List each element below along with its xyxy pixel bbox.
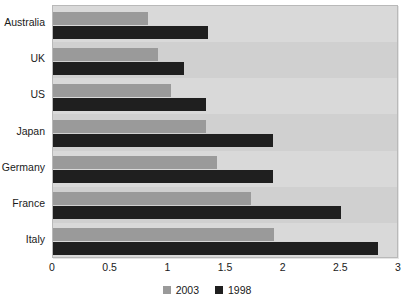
bar-chart: AustraliaUKUSJapanGermanyFranceItaly 00.…: [0, 0, 414, 301]
legend-entry-1998[interactable]: 1998: [215, 285, 251, 296]
bar-us-2003: [53, 84, 171, 97]
x-axis-tick-1.5: 1.5: [218, 261, 233, 273]
y-axis-label-australia: Australia: [4, 17, 45, 28]
legend-label: 1998: [228, 285, 251, 296]
x-axis-tick-2.5: 2.5: [333, 261, 348, 273]
bar-australia-1998: [53, 26, 208, 39]
legend-label: 2003: [176, 285, 199, 296]
x-axis-tick-2: 2: [280, 261, 286, 273]
legend-swatch-icon: [163, 286, 171, 294]
y-axis-category-labels: AustraliaUKUSJapanGermanyFranceItaly: [0, 5, 48, 258]
x-axis-tick-labels: 00.511.522.53: [0, 261, 414, 275]
y-axis-label-us: US: [30, 89, 45, 100]
bar-japan-1998: [53, 134, 273, 147]
bar-germany-1998: [53, 170, 273, 183]
chart-legend: 20031998: [0, 283, 414, 297]
bar-italy-2003: [53, 228, 274, 241]
bar-italy-1998: [53, 242, 378, 255]
y-axis-label-italy: Italy: [26, 234, 45, 245]
y-axis-label-france: France: [12, 198, 45, 209]
y-axis-label-germany: Germany: [2, 162, 45, 173]
bar-australia-2003: [53, 12, 148, 25]
bar-uk-2003: [53, 48, 158, 61]
legend-entry-2003[interactable]: 2003: [163, 285, 199, 296]
x-axis-tick-0: 0: [49, 261, 55, 273]
bar-japan-2003: [53, 120, 206, 133]
bar-france-1998: [53, 206, 341, 219]
y-axis-label-japan: Japan: [16, 126, 45, 137]
legend-swatch-icon: [215, 286, 223, 294]
x-axis-tick-3: 3: [395, 261, 401, 273]
x-axis-tick-1: 1: [164, 261, 170, 273]
bar-uk-1998: [53, 62, 184, 75]
plot-area: [52, 5, 398, 258]
bar-us-1998: [53, 98, 206, 111]
bar-france-2003: [53, 192, 251, 205]
x-axis-tick-0.5: 0.5: [102, 261, 117, 273]
y-axis-label-uk: UK: [30, 53, 45, 64]
bar-germany-2003: [53, 156, 217, 169]
